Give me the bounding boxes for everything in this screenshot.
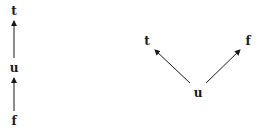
diagram-edges: [0, 0, 259, 133]
right-node-f: f: [245, 35, 250, 47]
right-edge-u-to-f: [206, 50, 240, 83]
right-node-u: u: [194, 87, 203, 99]
left-node-t: t: [11, 5, 17, 17]
left-node-f: f: [11, 115, 16, 127]
left-node-u: u: [10, 62, 19, 74]
right-edge-u-to-t: [155, 50, 190, 83]
right-node-t: t: [144, 35, 150, 47]
